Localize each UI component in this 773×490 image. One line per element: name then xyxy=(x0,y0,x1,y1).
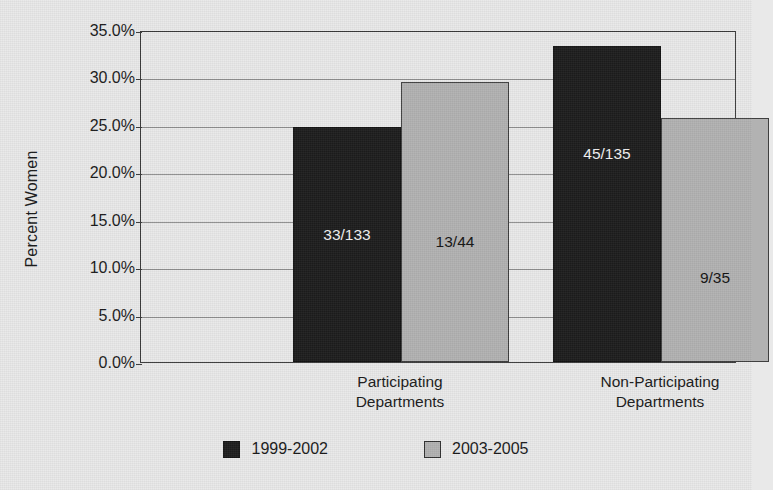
bar-value-label: 45/135 xyxy=(554,145,660,163)
y-axis-tick-label: 25.0% xyxy=(40,117,135,135)
y-axis-tick xyxy=(136,174,142,175)
legend-item-label: 1999-2002 xyxy=(251,440,328,458)
legend-item: 1999-2002 xyxy=(223,440,328,458)
bar: 9/35 xyxy=(661,118,769,362)
category-label-line: Departments xyxy=(530,392,773,412)
y-axis-title: Percent Women xyxy=(23,99,41,319)
category-label-line: Non-Participating xyxy=(530,372,773,392)
y-axis-tick-labels: 35.0%30.0%25.0%20.0%15.0%10.0%5.0%0.0% xyxy=(40,0,135,490)
y-axis-tick-label: 15.0% xyxy=(40,212,135,230)
category-label-line: Participating xyxy=(270,372,530,392)
legend: 1999-20022003-2005 xyxy=(0,440,752,458)
bar-value-label: 33/133 xyxy=(294,226,400,244)
bar-value-label: 9/35 xyxy=(662,269,768,287)
dark-swatch xyxy=(223,441,240,458)
plot-area: 33/13313/4445/1359/35 xyxy=(140,31,736,363)
y-axis-tick-label: 35.0% xyxy=(40,22,135,40)
y-axis-tick xyxy=(136,269,142,270)
y-axis-tick-label: 10.0% xyxy=(40,259,135,277)
bar: 45/135 xyxy=(553,46,661,362)
y-axis-tick-label: 5.0% xyxy=(40,307,135,325)
x-axis-category-label: Non-ParticipatingDepartments xyxy=(530,372,773,412)
y-axis-tick xyxy=(136,222,142,223)
y-axis-tick xyxy=(136,364,142,365)
category-label-line: Departments xyxy=(270,392,530,412)
legend-item: 2003-2005 xyxy=(424,440,529,458)
bar: 33/133 xyxy=(293,127,401,362)
x-axis-category-label: ParticipatingDepartments xyxy=(270,372,530,412)
y-axis-tick-label: 0.0% xyxy=(40,354,135,372)
light-swatch xyxy=(424,441,441,458)
legend-item-label: 2003-2005 xyxy=(452,440,529,458)
y-axis-tick xyxy=(136,79,142,80)
y-axis-tick xyxy=(136,127,142,128)
bar: 13/44 xyxy=(401,82,509,362)
y-axis-tick xyxy=(136,32,142,33)
y-axis-tick-label: 30.0% xyxy=(40,69,135,87)
y-axis-tick-label: 20.0% xyxy=(40,164,135,182)
y-axis-tick xyxy=(136,317,142,318)
bar-value-label: 13/44 xyxy=(402,233,508,251)
